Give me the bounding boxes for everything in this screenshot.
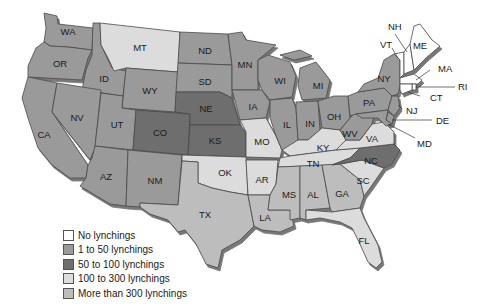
label-UT: UT — [111, 119, 124, 130]
label-NM: NM — [148, 175, 163, 186]
legend-label: 100 to 300 lynchings — [78, 273, 170, 284]
label-IN: IN — [305, 118, 315, 129]
label-MI: MI — [313, 80, 324, 91]
legend-swatch-vhigh — [63, 288, 74, 299]
label-WV: WV — [342, 128, 358, 139]
legend-item-mid: 50 to 100 lynchings — [63, 257, 187, 271]
label-MT: MT — [133, 42, 147, 53]
label-MA: MA — [438, 63, 453, 74]
label-RI: RI — [458, 81, 468, 92]
label-KS: KS — [209, 135, 222, 146]
label-DE: DE — [436, 115, 449, 126]
label-VA: VA — [366, 133, 379, 144]
label-ME: ME — [413, 40, 427, 51]
legend-swatch-mid — [63, 259, 74, 270]
label-AZ: AZ — [100, 171, 112, 182]
label-NJ: NJ — [406, 105, 418, 116]
label-WY: WY — [142, 85, 158, 96]
label-IL: IL — [283, 119, 291, 130]
label-WI: WI — [274, 75, 286, 86]
legend-item-high: 100 to 300 lynchings — [63, 272, 187, 286]
state-FL — [306, 208, 382, 268]
label-SD: SD — [198, 76, 211, 87]
label-KY: KY — [317, 142, 330, 153]
label-OR: OR — [53, 58, 67, 69]
legend-item-low: 1 to 50 lynchings — [63, 243, 187, 257]
label-CO: CO — [153, 127, 167, 138]
state-RI — [412, 84, 416, 90]
legend-label: More than 300 lynchings — [78, 288, 187, 299]
label-TN: TN — [307, 158, 320, 169]
label-CT: CT — [430, 92, 443, 103]
label-OH: OH — [327, 111, 341, 122]
label-ND: ND — [198, 45, 212, 56]
label-NC: NC — [364, 155, 378, 166]
label-VT: VT — [380, 39, 392, 50]
label-NY: NY — [377, 73, 391, 84]
label-MN: MN — [238, 59, 253, 70]
legend-label: 50 to 100 lynchings — [78, 259, 164, 270]
legend-item-vhigh: More than 300 lynchings — [63, 286, 187, 300]
state-MA — [400, 74, 422, 84]
label-NV: NV — [70, 112, 84, 123]
label-LA: LA — [259, 212, 271, 223]
label-SC: SC — [356, 175, 369, 186]
legend-item-none: No lynchings — [63, 228, 187, 242]
label-AL: AL — [307, 189, 319, 200]
legend-swatch-high — [63, 273, 74, 284]
map-legend: No lynchings 1 to 50 lynchings 50 to 100… — [63, 228, 187, 301]
label-TX: TX — [199, 209, 212, 220]
label-OK: OK — [218, 167, 232, 178]
label-FL: FL — [358, 235, 369, 246]
legend-label: No lynchings — [78, 230, 135, 241]
label-CA: CA — [37, 129, 51, 140]
legend-swatch-low — [63, 244, 74, 255]
label-MO: MO — [254, 136, 269, 147]
legend-swatch-none — [63, 230, 74, 241]
label-PA: PA — [363, 97, 376, 108]
label-NH: NH — [388, 21, 402, 32]
label-MD: MD — [417, 138, 432, 149]
label-GA: GA — [335, 188, 349, 199]
label-WA: WA — [61, 26, 77, 37]
label-ID: ID — [99, 73, 109, 84]
legend-label: 1 to 50 lynchings — [78, 244, 153, 255]
label-NE: NE — [199, 103, 212, 114]
label-IA: IA — [249, 101, 259, 112]
label-MS: MS — [282, 189, 296, 200]
label-AR: AR — [255, 174, 268, 185]
